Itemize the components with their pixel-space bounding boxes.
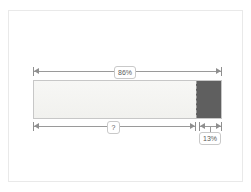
diagram-canvas: 86% ? 13% [0, 0, 251, 192]
total-arrow-right-icon [216, 68, 221, 74]
minor-dimension-cap-right [221, 122, 222, 131]
total-dimension-cap-right [221, 67, 222, 76]
minor-arrow-left-icon [200, 123, 205, 129]
proportion-bar[interactable] [33, 80, 222, 119]
bar-light-segment [34, 81, 196, 118]
unknown-dimension-cap-right [195, 122, 196, 131]
bar-segment-divider [196, 81, 197, 118]
unknown-value-label[interactable]: ? [107, 121, 120, 134]
unknown-arrow-left-icon [34, 123, 39, 129]
unknown-arrow-right-icon [190, 123, 195, 129]
minor-arrow-right-icon [216, 123, 221, 129]
total-arrow-left-icon [34, 68, 39, 74]
bar-dark-segment [196, 81, 221, 118]
minor-value-label[interactable]: 13% [199, 132, 221, 145]
total-value-label[interactable]: 86% [114, 66, 136, 79]
